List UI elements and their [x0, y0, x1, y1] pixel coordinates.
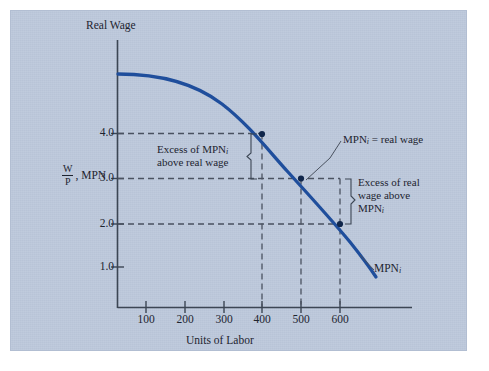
y-tick-label-1: 1.0 [88, 260, 114, 274]
excess-wage-annotation: Excess of real wage above MPNi [358, 176, 442, 215]
x-tick-label-500: 500 [286, 313, 316, 327]
excess-mpn-line1-base: Excess of MPN [157, 143, 226, 155]
wp-numerator: W [62, 164, 73, 174]
data-point-600 [337, 221, 343, 227]
x-tick-label-600: 600 [325, 313, 355, 327]
x-axis-title: Units of Labor [186, 334, 254, 348]
mpn-curve-label: MPNi [374, 262, 401, 276]
excess-mpn-line1-subscript: i [226, 147, 228, 156]
y-tick-label-3: 3.0 [88, 171, 114, 185]
curve-label-subscript: i [399, 266, 401, 275]
figure-container: Real Wage Units of Labor W P , MPN 4.0 3… [0, 0, 489, 371]
y-tick-label-4: 4.0 [88, 126, 114, 140]
y-axis-title: Real Wage [86, 19, 136, 33]
x-tick-label-300: 300 [209, 313, 239, 327]
excess-wage-line3-subscript: i [382, 206, 384, 215]
curve-label-leader [360, 255, 374, 270]
data-point-400 [259, 131, 265, 137]
equality-base: MPN [343, 133, 367, 145]
excess-wage-line1: Excess of real [358, 176, 420, 188]
excess-wage-line3-base: MPN [358, 202, 382, 214]
wp-denominator: P [64, 177, 72, 187]
equality-annotation: MPNi = real wage [343, 133, 423, 146]
excess-wage-line2: wage above [358, 189, 410, 201]
x-tick-label-200: 200 [170, 313, 200, 327]
curve-label-base: MPN [374, 262, 399, 274]
data-point-500 [298, 175, 304, 181]
equality-leader [306, 141, 341, 180]
x-tick-label-400: 400 [247, 313, 277, 327]
brace-excess-wage [345, 179, 355, 224]
x-tick-label-100: 100 [131, 313, 161, 327]
excess-mpn-annotation: Excess of MPNi above real wage [157, 143, 253, 169]
y-tick-label-2: 2.0 [88, 217, 114, 231]
wp-fraction: W P [62, 164, 73, 187]
mpn-curve [118, 74, 376, 277]
equality-rest: = real wage [369, 133, 423, 145]
excess-mpn-line2: above real wage [157, 156, 228, 168]
